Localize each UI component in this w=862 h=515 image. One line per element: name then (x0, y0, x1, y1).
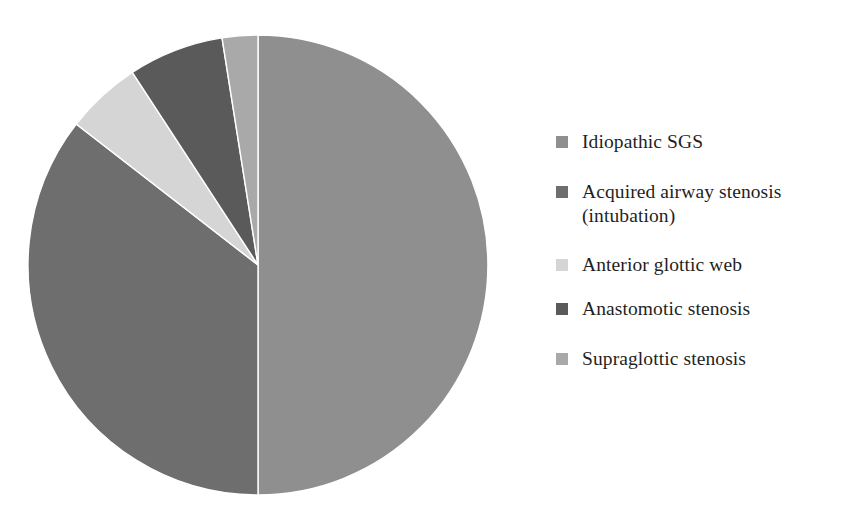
pie-slice-group (28, 35, 488, 495)
legend-label-idiopathic-sgs: Idiopathic SGS (582, 130, 703, 154)
legend-item-anterior-glottic-web[interactable]: Anterior glottic web (556, 253, 856, 277)
legend-item-acquired-airway-stenosis[interactable]: Acquired airway stenosis (intubation) (556, 180, 856, 228)
legend-item-idiopathic-sgs[interactable]: Idiopathic SGS (556, 130, 856, 154)
pie-chart-page: Idiopathic SGS Acquired airway stenosis … (0, 0, 862, 515)
legend-label-anastomotic-stenosis: Anastomotic stenosis (582, 297, 750, 321)
pie-slice[interactable] (258, 35, 488, 495)
legend-label-acquired-airway-stenosis: Acquired airway stenosis (intubation) (582, 180, 782, 228)
legend-swatch-anterior-glottic-web (556, 259, 568, 271)
legend-swatch-supraglottic-stenosis (556, 353, 568, 365)
legend-swatch-acquired-airway-stenosis (556, 186, 568, 198)
chart-legend: Idiopathic SGS Acquired airway stenosis … (556, 130, 856, 397)
pie-chart-area (0, 0, 520, 515)
legend-swatch-anastomotic-stenosis (556, 303, 568, 315)
legend-swatch-idiopathic-sgs (556, 136, 568, 148)
legend-item-supraglottic-stenosis[interactable]: Supraglottic stenosis (556, 347, 856, 371)
legend-label-anterior-glottic-web: Anterior glottic web (582, 253, 742, 277)
legend-label-supraglottic-stenosis: Supraglottic stenosis (582, 347, 746, 371)
legend-item-anastomotic-stenosis[interactable]: Anastomotic stenosis (556, 297, 856, 321)
pie-chart-svg (0, 0, 520, 515)
